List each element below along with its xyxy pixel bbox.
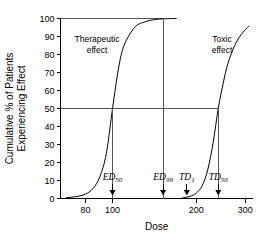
y-tick-label-10: 10 [44, 176, 54, 186]
curve-label-therapeutic-line1: Therapeutic [75, 34, 121, 44]
y-tick-label-90: 90 [44, 32, 54, 42]
y-tick-label-50: 50 [44, 104, 54, 114]
x-tick-label-80: 80 [81, 205, 91, 215]
y-axis-title-line1: Cumulative % of Patients [4, 53, 15, 165]
dose-response-chart: 010203040506070809010080100200300DoseCum… [0, 0, 261, 243]
x-tick-label-200: 200 [189, 205, 204, 215]
x-axis-title: Dose [145, 221, 169, 232]
reference-lines-group [61, 19, 219, 109]
y-tick-label-0: 0 [49, 194, 54, 204]
y-tick-label-100: 100 [39, 14, 54, 24]
x-tick-label-100: 100 [105, 205, 120, 215]
curve-label-toxic-line1: Toxic [212, 34, 232, 44]
annotation-label-td1: TD1 [179, 172, 195, 185]
y-tick-label-40: 40 [44, 122, 54, 132]
chart-canvas: 010203040506070809010080100200300DoseCum… [0, 0, 261, 243]
arrow-head-ed50 [110, 190, 116, 196]
x-tick-label-300: 300 [238, 205, 253, 215]
arrow-head-td1 [184, 190, 190, 196]
arrow-head-td50 [215, 190, 221, 196]
y-tick-label-20: 20 [44, 158, 54, 168]
y-tick-label-60: 60 [44, 86, 54, 96]
y-tick-label-80: 80 [44, 50, 54, 60]
curve-label-toxic-line2: effect [212, 45, 233, 55]
curve-label-therapeutic-line2: effect [87, 45, 108, 55]
y-axis-title-line2: Experiencing Effect [16, 65, 27, 151]
arrow-head-ed99 [160, 190, 166, 196]
y-tick-label-30: 30 [44, 140, 54, 150]
y-tick-label-70: 70 [44, 68, 54, 78]
